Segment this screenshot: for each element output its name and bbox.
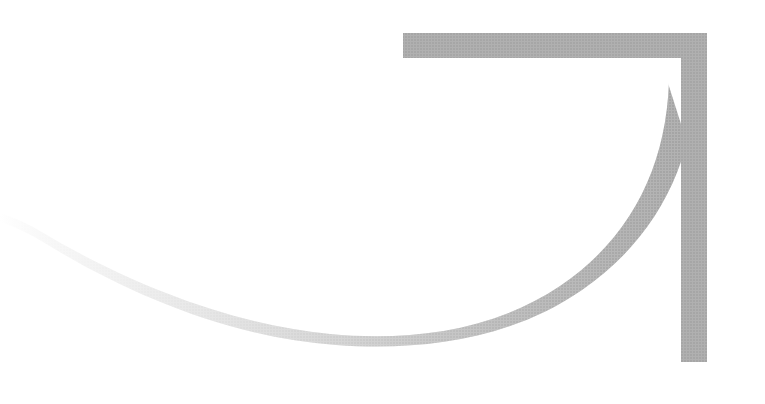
logo-mark-icon: [0, 0, 765, 404]
horizontal-bar: [403, 33, 707, 58]
vertical-bar: [681, 40, 707, 362]
logo-canvas: Logo Mark Grey corner bracket with a swe…: [0, 0, 765, 404]
